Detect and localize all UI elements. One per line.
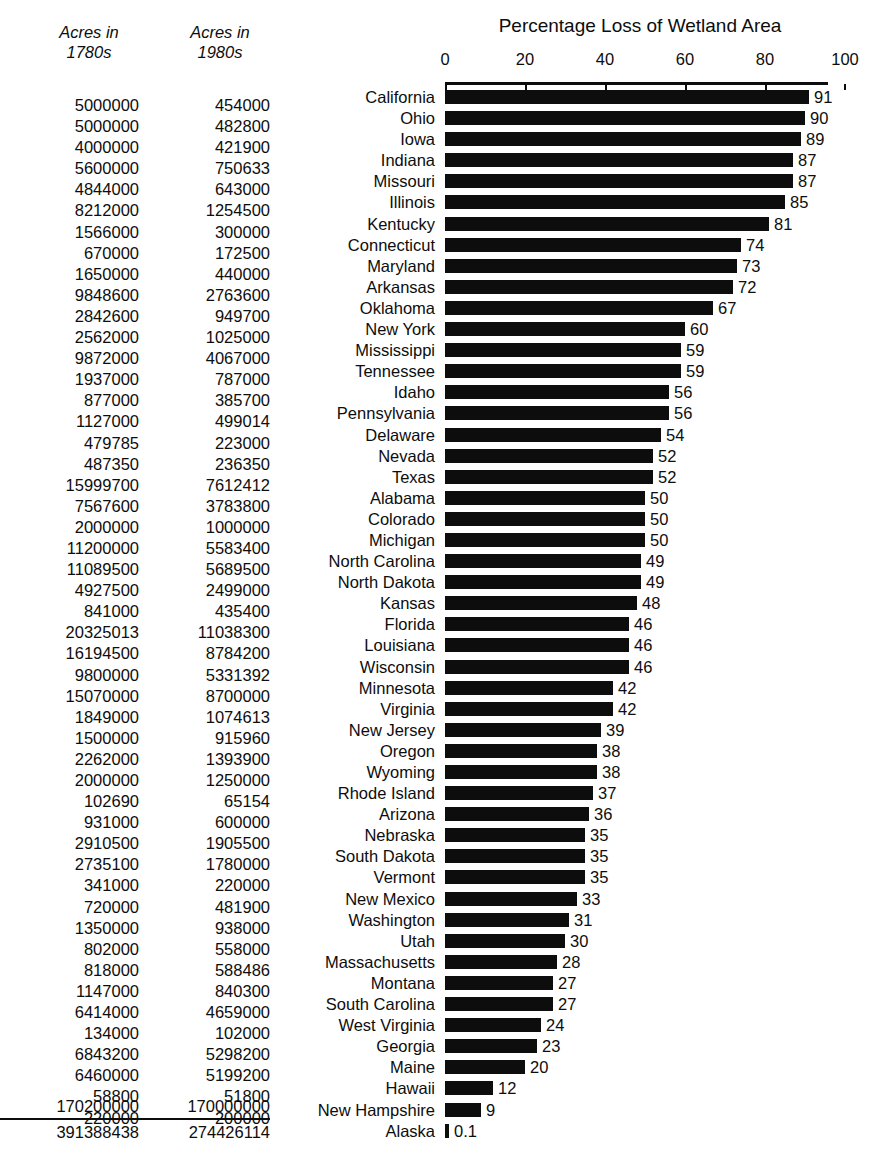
bar	[445, 913, 569, 927]
state-label: Indiana	[381, 152, 435, 169]
chart-row: Montana27	[0, 974, 876, 995]
bar	[445, 174, 793, 188]
x-axis-tick-label: 20	[500, 50, 550, 69]
x-axis-tick-label: 100	[820, 50, 870, 69]
bar	[445, 554, 641, 568]
bar	[445, 449, 653, 463]
bar-value-label: 28	[562, 954, 580, 971]
state-label: Vermont	[374, 869, 435, 886]
chart-row: Arkansas72	[0, 278, 876, 299]
bar	[445, 322, 685, 336]
state-label: California	[365, 89, 435, 106]
state-label: Louisiana	[364, 637, 435, 654]
bar-value-label: 27	[558, 996, 576, 1013]
bar	[445, 533, 645, 547]
bar-value-label: 48	[642, 595, 660, 612]
chart-row: Maryland73	[0, 257, 876, 278]
state-label: Oklahoma	[360, 300, 435, 317]
bar-value-label: 37	[598, 785, 616, 802]
chart-row: New Mexico33	[0, 890, 876, 911]
chart-row: Maine20	[0, 1058, 876, 1079]
chart-row: Utah30	[0, 932, 876, 953]
state-label: South Carolina	[326, 996, 435, 1013]
chart-row: New York60	[0, 320, 876, 341]
chart-row: Wisconsin46	[0, 658, 876, 679]
state-label: Connecticut	[348, 237, 435, 254]
x-axis-tick-label: 40	[580, 50, 630, 69]
bar-value-label: 85	[790, 194, 808, 211]
chart-row: Washington31	[0, 911, 876, 932]
state-label: South Dakota	[335, 848, 435, 865]
x-axis: 020406080100	[0, 0, 876, 95]
chart-row: Georgia23	[0, 1037, 876, 1058]
chart-row: Illinois85	[0, 193, 876, 214]
bar	[445, 512, 645, 526]
bar	[445, 217, 769, 231]
bar	[445, 786, 593, 800]
bar-value-label: 81	[774, 216, 792, 233]
chart-row: Connecticut74	[0, 236, 876, 257]
bar	[445, 195, 785, 209]
bar-value-label: 46	[634, 616, 652, 633]
wetland-loss-bar-chart: Percentage Loss of Wetland Area 02040608…	[0, 0, 876, 1164]
bar	[445, 343, 681, 357]
state-label: Arizona	[379, 806, 435, 823]
state-label: New Mexico	[345, 891, 435, 908]
bar	[445, 828, 585, 842]
bar	[445, 301, 713, 315]
bar	[445, 280, 733, 294]
state-label: North Dakota	[338, 574, 435, 591]
chart-row: Mississippi59	[0, 341, 876, 362]
chart-row: Colorado50	[0, 510, 876, 531]
x-axis-tick-label: 60	[660, 50, 710, 69]
state-label: Georgia	[376, 1038, 435, 1055]
bar-value-label: 39	[606, 722, 624, 739]
x-axis-tick-label: 80	[740, 50, 790, 69]
bar-value-label: 56	[674, 384, 692, 401]
chart-row: Kansas48	[0, 594, 876, 615]
bar-value-label: 12	[498, 1080, 516, 1097]
chart-row: South Dakota35	[0, 847, 876, 868]
state-label: Kentucky	[367, 216, 435, 233]
bar-value-label: 87	[798, 173, 816, 190]
bar-value-label: 56	[674, 405, 692, 422]
bar-value-label: 50	[650, 490, 668, 507]
bar-value-label: 20	[530, 1059, 548, 1076]
chart-row: Kentucky81	[0, 215, 876, 236]
bar-value-label: 24	[546, 1017, 564, 1034]
chart-row: Tennessee59	[0, 362, 876, 383]
bar-value-label: 38	[602, 764, 620, 781]
chart-row: Virginia42	[0, 700, 876, 721]
bar-value-label: 30	[570, 933, 588, 950]
bar-value-label: 46	[634, 659, 652, 676]
bar-value-label: 23	[542, 1038, 560, 1055]
bar	[445, 1081, 493, 1095]
bar	[445, 153, 793, 167]
bar	[445, 428, 661, 442]
bar-value-label: 36	[594, 806, 612, 823]
chart-row: California91	[0, 88, 876, 109]
chart-row: Arizona36	[0, 805, 876, 826]
bar	[445, 90, 809, 104]
bar	[445, 491, 645, 505]
bar-value-label: 74	[746, 237, 764, 254]
state-label: North Carolina	[329, 553, 435, 570]
state-label: Rhode Island	[338, 785, 435, 802]
state-label: Colorado	[368, 511, 435, 528]
bar-value-label: 27	[558, 975, 576, 992]
bar	[445, 1124, 449, 1138]
bar	[445, 1018, 541, 1032]
bar-value-label: 31	[574, 912, 592, 929]
chart-row: Alabama50	[0, 489, 876, 510]
state-label: Alaska	[385, 1123, 435, 1140]
bar-value-label: 73	[742, 258, 760, 275]
bar	[445, 385, 669, 399]
chart-row: Delaware54	[0, 426, 876, 447]
bar	[445, 596, 637, 610]
bar-value-label: 87	[798, 152, 816, 169]
chart-row: Ohio90	[0, 109, 876, 130]
chart-row: Massachusetts28	[0, 953, 876, 974]
chart-row: South Carolina27	[0, 995, 876, 1016]
state-label: Florida	[385, 616, 435, 633]
bar	[445, 238, 741, 252]
